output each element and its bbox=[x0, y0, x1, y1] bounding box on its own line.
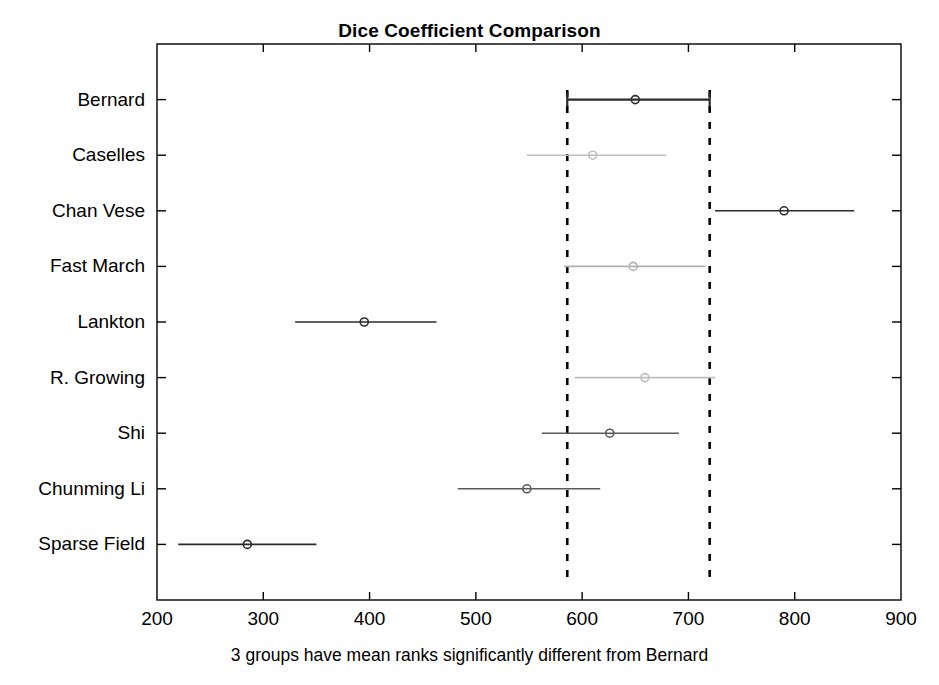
y-tick-label-lankton: Lankton bbox=[0, 311, 145, 333]
comparison-interval-lines bbox=[567, 90, 709, 582]
x-tick-label: 900 bbox=[885, 608, 917, 630]
figure-container: Dice Coefficient Comparison BernardCasel… bbox=[0, 0, 939, 685]
x-tick-label: 500 bbox=[460, 608, 492, 630]
x-tick-label: 400 bbox=[354, 608, 386, 630]
plot-box bbox=[157, 44, 901, 600]
y-tick-label-bernard: Bernard bbox=[0, 89, 145, 111]
interval-series bbox=[178, 93, 854, 549]
y-tick-label-fast-march: Fast March bbox=[0, 255, 145, 277]
interval-row bbox=[178, 540, 316, 548]
interval-row bbox=[542, 429, 679, 437]
y-tick-label-sparse-field: Sparse Field bbox=[0, 533, 145, 555]
interval-row bbox=[295, 318, 436, 326]
y-tick-label-chan-vese: Chan Vese bbox=[0, 200, 145, 222]
y-tick-label-r-growing: R. Growing bbox=[0, 367, 145, 389]
x-tick-label: 700 bbox=[673, 608, 705, 630]
interval-row bbox=[715, 207, 854, 215]
x-tick-label: 300 bbox=[247, 608, 279, 630]
interval-row bbox=[567, 93, 709, 107]
y-tick-label-chunming-li: Chunming Li bbox=[0, 478, 145, 500]
x-tick-label: 800 bbox=[779, 608, 811, 630]
x-tick-label: 200 bbox=[141, 608, 173, 630]
interval-row bbox=[575, 374, 715, 382]
interval-row bbox=[564, 262, 705, 270]
x-axis-label: 3 groups have mean ranks significantly d… bbox=[0, 645, 939, 666]
x-tick-label: 600 bbox=[566, 608, 598, 630]
interval-row bbox=[527, 151, 666, 159]
axis-ticks bbox=[157, 44, 901, 600]
y-tick-label-caselles: Caselles bbox=[0, 144, 145, 166]
interval-row bbox=[458, 485, 600, 493]
axes bbox=[157, 44, 901, 600]
y-tick-label-shi: Shi bbox=[0, 422, 145, 444]
